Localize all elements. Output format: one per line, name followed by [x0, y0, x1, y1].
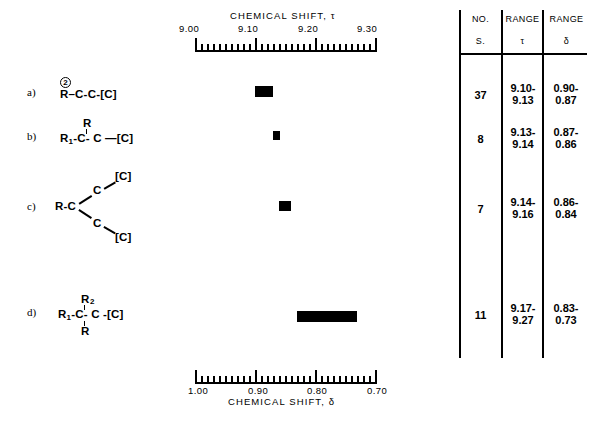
axis-minor-tick: [303, 376, 305, 382]
table-header-delta-line1: RANGE: [544, 14, 589, 24]
table-row-1-delta-line1: 0.90-: [545, 82, 587, 95]
axis-minor-tick: [327, 376, 329, 382]
axis-minor-tick: [351, 44, 353, 50]
axis-minor-tick: [279, 44, 281, 50]
axis-minor-tick: [219, 44, 221, 50]
axis-minor-tick: [225, 44, 227, 50]
data-bar-d: [297, 311, 357, 322]
axis-minor-tick: [333, 376, 335, 382]
axis-cap-left: [195, 38, 197, 52]
axis-minor-tick: [279, 376, 281, 382]
axis-minor-tick: [357, 376, 359, 382]
table-row-3-tau-line1: 9.14-: [503, 196, 543, 209]
axis-major-tick: [315, 370, 317, 382]
data-bar-b: [273, 131, 280, 140]
axis-minor-tick: [249, 44, 251, 50]
table-row-2-delta-line1: 0.87-: [545, 126, 587, 139]
structure-c-bond-up-end: [104, 182, 116, 190]
axis-minor-tick: [243, 44, 245, 50]
axis-minor-tick: [267, 376, 269, 382]
axis-major-tick: [315, 38, 317, 50]
structure-a-stem: R: [60, 88, 69, 100]
table-row-3-tau-line2: 9.16: [503, 208, 543, 221]
table-row-3-delta-line2: 0.84: [545, 208, 587, 221]
axis-minor-tick: [351, 376, 353, 382]
table-row-1-delta-line2: 0.87: [545, 94, 587, 107]
structure-c: R-C C [C] C [C]: [55, 200, 76, 212]
axis-cap-right: [375, 370, 377, 384]
top-axis-tick-910: 9.10: [238, 23, 258, 34]
axis-minor-tick: [339, 44, 341, 50]
table-row-1-tau-line1: 9.10-: [503, 82, 543, 95]
structure-c-branch-end-upper: [C]: [115, 170, 132, 182]
axis-minor-tick: [213, 376, 215, 382]
structure-c-bond-up: [79, 195, 92, 204]
axis-major-tick: [255, 370, 257, 382]
axis-minor-tick: [309, 376, 311, 382]
table-header-rule: [459, 53, 587, 55]
table-header-no-line2: S.: [459, 36, 502, 46]
table-row-2-tau-line1: 9.13-: [503, 126, 543, 139]
axis-minor-tick: [261, 44, 263, 50]
axis-minor-tick: [267, 44, 269, 50]
structure-d-above-R: R: [81, 293, 90, 305]
axis-minor-tick: [273, 376, 275, 382]
top-axis-title: CHEMICAL SHIFT, τ: [230, 10, 336, 21]
table-header-no-line1: NO.: [459, 14, 502, 24]
axis-minor-tick: [201, 44, 203, 50]
top-axis-tick-920: 9.20: [298, 23, 318, 34]
axis-cap-left: [195, 370, 197, 384]
row-label-b: b): [27, 130, 36, 142]
axis-minor-tick: [261, 376, 263, 382]
structure-d: R1-C- C -[C] R 2 R: [58, 308, 124, 322]
axis-minor-tick: [291, 376, 293, 382]
axis-baseline: [195, 382, 377, 384]
bottom-axis-tick-070: 0.70: [367, 385, 387, 396]
structure-d-above-sub: 2: [90, 297, 95, 306]
structure-b: R1-C- C —[C] R: [60, 132, 133, 146]
axis-minor-tick: [237, 376, 239, 382]
structure-c-branch-atom-upper: C: [93, 184, 102, 196]
axis-minor-tick: [333, 44, 335, 50]
bottom-axis-tick-080: 0.80: [307, 385, 327, 396]
structure-a: 2 R–C-C-[C]: [60, 88, 117, 100]
axis-minor-tick: [219, 376, 221, 382]
data-bar-a: [255, 86, 273, 97]
structure-d-below-R: R: [81, 325, 90, 337]
top-axis-tick-930: 9.30: [357, 23, 377, 34]
structure-b-left: R: [60, 132, 69, 144]
structure-c-bond-down: [79, 209, 92, 218]
table-row-2-delta-line2: 0.86: [545, 138, 587, 151]
table-row-4-tau-line1: 9.17-: [503, 302, 543, 315]
table-row-2-count: 8: [459, 133, 502, 145]
axis-minor-tick: [225, 376, 227, 382]
table-header-tau-line1: RANGE: [502, 14, 543, 24]
table-row-4-tau-line2: 9.27: [503, 314, 543, 327]
structure-d-vertical-bond-up: [84, 305, 85, 310]
axis-minor-tick: [297, 376, 299, 382]
table-row-3-count: 7: [459, 203, 502, 215]
axis-minor-tick: [285, 376, 287, 382]
table-row-2-tau-line2: 9.14: [503, 138, 543, 151]
axis-major-tick: [255, 38, 257, 50]
axis-minor-tick: [309, 44, 311, 50]
axis-minor-tick: [231, 376, 233, 382]
top-axis-tick-900: 9.00: [179, 23, 199, 34]
structure-a-chain: –C-C-[C]: [69, 88, 117, 100]
axis-cap-right: [375, 38, 377, 52]
structure-d-center: -C- C -[C]: [71, 308, 123, 320]
structure-c-branch-atom-lower: C: [93, 217, 102, 229]
structure-c-stem: R-C: [55, 200, 76, 212]
axis-minor-tick: [363, 376, 365, 382]
table-row-1-tau-line2: 9.13: [503, 94, 543, 107]
table-header-tau-line2: τ: [502, 36, 543, 46]
axis-baseline: [195, 50, 377, 52]
axis-minor-tick: [297, 44, 299, 50]
axis-minor-tick: [321, 376, 323, 382]
axis-minor-tick: [243, 376, 245, 382]
structure-c-branch-end-lower: [C]: [115, 231, 132, 243]
row-label-d: d): [27, 306, 36, 318]
bottom-axis-tick-090: 0.90: [248, 385, 268, 396]
structure-b-above-R: R: [83, 117, 92, 129]
axis-minor-tick: [369, 376, 371, 382]
